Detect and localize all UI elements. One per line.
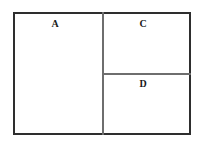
horizontal-divider: [103, 73, 191, 75]
region-a-label: A: [51, 19, 58, 29]
region-d-label: D: [139, 79, 146, 89]
region-c-label: C: [139, 19, 146, 29]
